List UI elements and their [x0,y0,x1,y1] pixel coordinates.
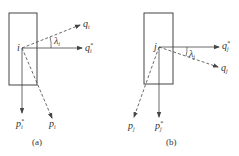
label-p-i-star: p*i [15,118,24,130]
label-q-j-star: q*j [222,40,230,52]
angle-label-b: λj [188,48,195,60]
angle-arc-a [50,37,51,48]
caption-a: (a) [32,137,42,147]
label-q-j: qj [221,62,228,74]
label-p-j: pj [127,120,135,132]
force-diagram: i λi qi q*i p*i pi (a) j λj q*j qj pj p*… [0,0,239,156]
point-label-j: j [152,41,157,52]
vector-p-j-dashed [134,47,159,117]
member-rectangle-a [9,13,37,85]
panel-a: i λi qi q*i p*i pi (a) [9,13,93,147]
caption-b: (b) [166,137,177,147]
angle-arc-b [186,47,187,56]
label-p-j-star: p*j [154,120,163,132]
label-p-i: pi [48,118,56,130]
point-label-i: i [17,42,20,53]
panel-b: j λj q*j qj pj p*j (b) [127,13,230,147]
angle-label-a: λi [53,35,60,47]
label-q-i-star: q*i [85,42,93,54]
label-q-i: qi [83,18,90,30]
